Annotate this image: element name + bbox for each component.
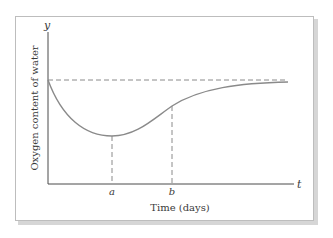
tick-label-a: a [109, 186, 115, 197]
x-axis-symbol: t [297, 178, 302, 191]
oxygen-curve [48, 80, 288, 136]
y-axis-title: Oxygen content of water [29, 45, 40, 170]
tick-label-b: b [169, 186, 175, 197]
x-axis-title: Time (days) [150, 202, 209, 213]
y-axis-symbol: y [43, 19, 51, 32]
oxygen-sag-diagram: y t a b Time (days) Oxygen content of wa… [0, 0, 333, 238]
